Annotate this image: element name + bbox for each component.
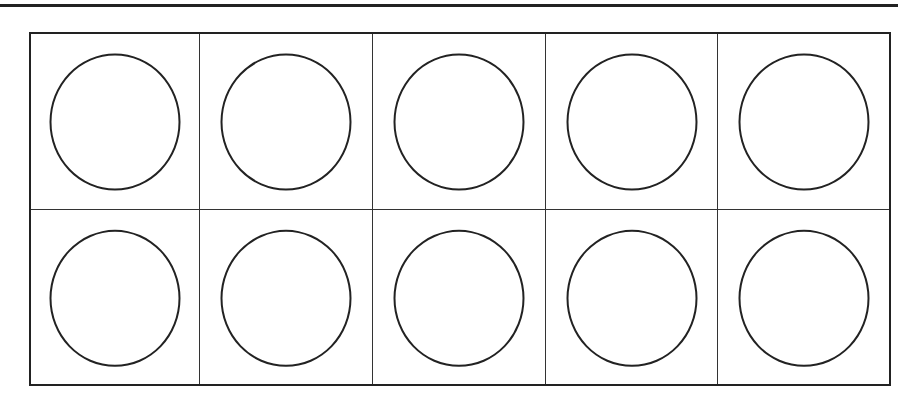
ten-frame-cell-r1-c2 — [200, 34, 373, 210]
empty-circle-icon — [738, 230, 869, 367]
empty-circle-icon — [221, 230, 352, 367]
ten-frame-cell-r2-c1 — [31, 210, 200, 384]
ten-frame-cell-r2-c2 — [200, 210, 373, 384]
empty-circle-icon — [566, 230, 697, 367]
empty-circle-icon — [394, 230, 525, 367]
empty-circle-icon — [738, 53, 869, 190]
empty-circle-icon — [566, 53, 697, 190]
top-divider-line — [0, 4, 898, 7]
ten-frame — [29, 32, 891, 386]
ten-frame-cell-r2-c4 — [546, 210, 718, 384]
empty-circle-icon — [50, 230, 181, 367]
empty-circle-icon — [50, 53, 181, 190]
ten-frame-cell-r1-c5 — [718, 34, 889, 210]
ten-frame-cell-r1-c4 — [546, 34, 718, 210]
ten-frame-cell-r1-c3 — [373, 34, 546, 210]
ten-frame-cell-r1-c1 — [31, 34, 200, 210]
empty-circle-icon — [394, 53, 525, 190]
ten-frame-cell-r2-c5 — [718, 210, 889, 384]
empty-circle-icon — [221, 53, 352, 190]
ten-frame-grid — [31, 34, 889, 384]
ten-frame-cell-r2-c3 — [373, 210, 546, 384]
